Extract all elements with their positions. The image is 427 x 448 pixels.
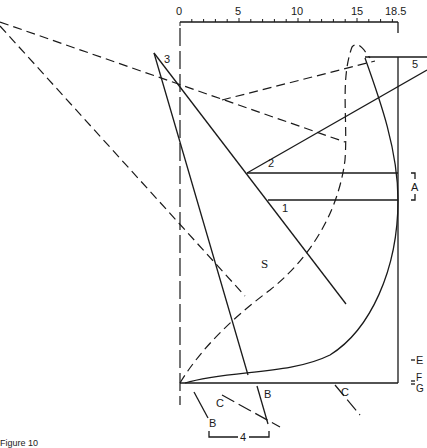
profile-curve (185, 58, 398, 383)
line-3b (154, 53, 346, 304)
s-curve (180, 45, 370, 383)
svg-text:4: 4 (240, 431, 246, 443)
tick-10: 10 (291, 5, 303, 17)
label-3: 3 (164, 53, 170, 65)
scale-bar: 0 5 10 15 18.5 (176, 5, 406, 33)
marks-efg: E F G (411, 354, 424, 394)
label-2: 2 (268, 157, 274, 169)
dashed-line-lower (0, 26, 245, 296)
tick-5: 5 (235, 5, 241, 17)
figure-caption: Figure 10 (0, 438, 38, 448)
svg-text:A: A (411, 181, 419, 193)
dashed-line-top (222, 61, 375, 100)
bottom-marks: B B C C 4 (194, 385, 360, 443)
bracket-a: A (411, 173, 419, 200)
svg-text:C: C (216, 397, 224, 409)
svg-text:E: E (416, 354, 423, 366)
line-3a (154, 53, 248, 375)
svg-text:F: F (416, 372, 422, 383)
label-5: 5 (412, 58, 418, 70)
tick-15: 15 (351, 5, 363, 17)
tick-0: 0 (176, 5, 182, 17)
tick-18-5: 18.5 (385, 5, 406, 17)
svg-text:G: G (416, 383, 424, 394)
label-s: S (261, 256, 268, 271)
svg-text:B: B (264, 388, 271, 400)
svg-text:C: C (341, 386, 349, 398)
svg-text:B: B (209, 417, 216, 429)
label-1: 1 (282, 202, 288, 214)
